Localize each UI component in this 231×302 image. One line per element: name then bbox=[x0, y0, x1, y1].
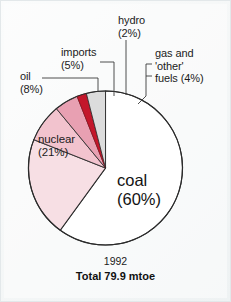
caption-year: 1992 bbox=[0, 255, 231, 268]
chart-caption: 1992 Total 79.9 mtoe bbox=[0, 255, 231, 283]
leader-line-oil bbox=[42, 78, 98, 92]
slice-label-nuclear: nuclear (21%) bbox=[38, 133, 75, 159]
slice-label-imports: imports (5%) bbox=[61, 46, 96, 71]
slice-label-hydro: hydro (2%) bbox=[118, 14, 145, 39]
slice-label-coal: coal (60%) bbox=[117, 171, 161, 209]
leader-line-gas-other bbox=[146, 64, 152, 76]
caption-total: Total 79.9 mtoe bbox=[0, 269, 231, 283]
slice-label-gas-other: gas and 'other' fuels (4%) bbox=[155, 47, 204, 85]
slice-label-oil: oil (8%) bbox=[20, 70, 43, 95]
pie-chart-figure: hydro (2%) gas and 'other' fuels (4%) im… bbox=[0, 0, 231, 302]
